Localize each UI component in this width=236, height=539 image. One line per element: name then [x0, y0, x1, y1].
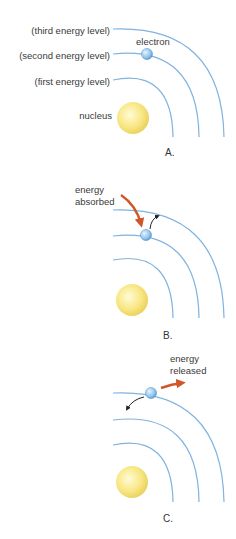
label-second-level: (second energy level): [19, 50, 110, 61]
label-energy-released-2: released: [170, 365, 206, 376]
electron-c: [146, 388, 157, 399]
electron-drop-arrow: [127, 397, 144, 409]
label-electron: electron: [136, 36, 170, 47]
energy-level-diagram: (third energy level) (second energy leve…: [0, 0, 236, 539]
label-first-level: (first energy level): [35, 76, 111, 87]
label-energy-absorbed-2: absorbed: [75, 196, 115, 207]
panel-b: energy absorbed B.: [75, 184, 224, 341]
label-energy-released-1: energy: [170, 353, 199, 364]
label-energy-absorbed-1: energy: [75, 184, 104, 195]
caption-b: B.: [163, 330, 172, 341]
electron-b: [141, 230, 152, 241]
electron-a: [142, 49, 153, 60]
nucleus-b: [116, 284, 148, 316]
nucleus-c: [116, 466, 148, 498]
panel-c: energy released C.: [113, 353, 224, 524]
label-nucleus: nucleus: [79, 110, 112, 121]
nucleus-a: [117, 102, 149, 134]
caption-a: A.: [165, 147, 174, 158]
panel-a: (third energy level) (second energy leve…: [19, 25, 224, 158]
energy-released-arrow: [161, 383, 182, 388]
label-third-level: (third energy level): [31, 25, 110, 36]
caption-c: C.: [163, 513, 173, 524]
electron-jump-arrow: [150, 216, 158, 229]
